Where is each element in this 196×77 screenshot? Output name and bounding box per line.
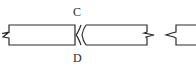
left-beam-segment bbox=[2, 25, 75, 45]
label-d: D bbox=[73, 51, 82, 65]
label-c: C bbox=[73, 5, 81, 19]
neck-bottom-left bbox=[76, 35, 81, 45]
middle-beam-segment bbox=[86, 25, 154, 45]
neck-top-left bbox=[76, 25, 81, 35]
right-beam-segment bbox=[166, 25, 196, 45]
beam-diagram: C D bbox=[0, 0, 196, 77]
neck-top-right bbox=[82, 25, 86, 35]
neck-bottom-right bbox=[82, 35, 86, 45]
